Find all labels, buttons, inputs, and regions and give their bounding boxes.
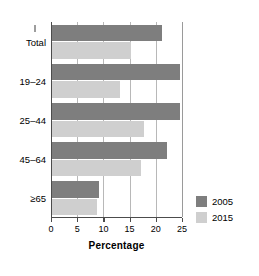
gridline-20 [156,22,157,217]
bar-2015-65 [52,199,97,216]
bar-2005-2544 [52,103,180,120]
x-tick-20 [156,218,157,222]
x-tick-25 [182,218,183,222]
bar-2015-1924 [52,81,120,98]
x-tick-label-25: 25 [177,224,187,235]
bar-2005-4564 [52,142,167,159]
bar-2015-Total [52,42,131,59]
x-tick-0 [51,218,52,222]
legend-swatch-2015-icon [196,212,207,223]
bar-2005-Total [52,25,162,42]
category-label-65: ≥65 [30,193,46,204]
legend-item-2015: 2015 [196,209,233,225]
x-tick-10 [103,218,104,222]
x-tick-label-15: 15 [125,224,135,235]
category-label-1924: 19–24 [20,75,46,86]
bar-2005-1924 [52,64,180,81]
bar-2005-65 [52,181,99,198]
x-tick-label-10: 10 [98,224,108,235]
bar-chart-figure: 0510152025 Total19–2425–4445–64≥65 Perce… [0,0,259,276]
legend-item-2005: 2005 [196,193,233,209]
category-label-2544: 25–44 [20,115,46,126]
x-tick-label-20: 20 [151,224,161,235]
x-tick-15 [130,218,131,222]
x-tick-label-5: 5 [75,224,80,235]
chart-legend: 2005 2015 [196,193,233,225]
category-label-Total: Total [26,36,46,47]
x-tick-5 [77,218,78,222]
category-label-4564: 45–64 [20,154,46,165]
scan-artifact-mark [34,25,36,32]
x-axis-title: Percentage [51,240,182,251]
bar-2015-4564 [52,160,141,177]
x-tick-label-0: 0 [48,224,53,235]
plot-area [51,22,182,218]
legend-swatch-2005-icon [196,196,207,207]
legend-label-2005: 2005 [212,196,233,207]
gridline-25 [182,22,183,217]
legend-label-2015: 2015 [212,212,233,223]
bar-2015-2544 [52,121,144,138]
